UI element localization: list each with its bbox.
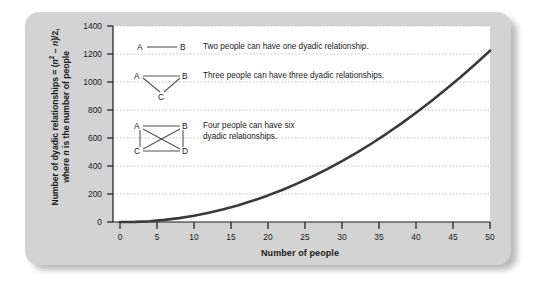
node-label-a1: A (137, 42, 143, 52)
x-tick-label: 0 (108, 232, 132, 242)
y-tick-label: 200 (72, 189, 102, 199)
node-label-a3: A (134, 121, 140, 131)
x-tick-label: 40 (404, 232, 428, 242)
x-axis-title: Number of people (180, 248, 420, 258)
node-label-a2: A (134, 71, 140, 81)
y-tick-label: 800 (72, 105, 102, 115)
x-tick-label: 45 (441, 232, 465, 242)
y-tick-label: 400 (72, 161, 102, 171)
annotation-four-people-line2: dyadic relationships. (203, 132, 353, 142)
y-tick-label: 1400 (72, 21, 102, 31)
x-tick-label: 30 (330, 232, 354, 242)
node-label-b3: B (182, 121, 188, 131)
x-tick-label: 20 (256, 232, 280, 242)
y-tick-label: 0 (72, 217, 102, 227)
y-tick-label: 600 (72, 133, 102, 143)
annotation-two-people: Two people can have one dyadic relations… (203, 42, 453, 52)
diagram-three-people (143, 76, 180, 92)
y-tick-label: 1200 (72, 49, 102, 59)
node-label-b2: B (182, 71, 188, 81)
x-tick-label: 50 (478, 232, 502, 242)
node-label-c2: C (158, 92, 164, 102)
x-tick-label: 10 (182, 232, 206, 242)
x-tick-label: 35 (367, 232, 391, 242)
annotation-three-people: Three people can have three dyadic relat… (203, 71, 463, 81)
x-tick-label: 25 (293, 232, 317, 242)
y-axis-ticks (107, 26, 113, 222)
y-axis-title: Number of dyadic relationships = (n2 – n… (46, 17, 72, 217)
x-tick-label: 15 (219, 232, 243, 242)
figure-container: Number of dyadic relationships = (n2 – n… (0, 0, 534, 286)
annotation-four-people-line1: Four people can have six (203, 121, 353, 131)
y-axis-title-line2: where n is the number of people (61, 51, 71, 183)
y-axis-title-line1: Number of dyadic relationships = (n2 – n… (50, 28, 60, 205)
y-tick-label: 1000 (72, 77, 102, 87)
x-tick-label: 5 (145, 232, 169, 242)
x-axis-ticks (120, 222, 490, 229)
node-label-b1: B (180, 42, 186, 52)
node-label-d3: D (182, 146, 188, 156)
node-label-c3: C (134, 146, 140, 156)
